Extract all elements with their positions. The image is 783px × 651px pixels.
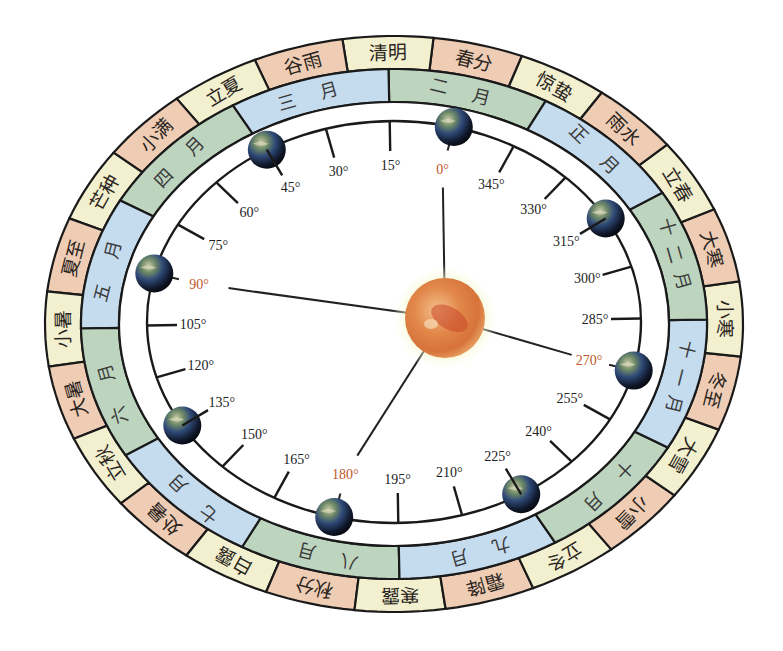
degree-label: 105° [180, 317, 207, 332]
degree-label: 45° [281, 180, 301, 195]
degree-label: 30° [329, 164, 349, 179]
degree-label: 150° [241, 427, 268, 442]
degree-label: 240° [525, 424, 552, 439]
degree-tick [611, 319, 641, 320]
sun-icon [391, 264, 499, 372]
solar-term-segment: 寒露 [355, 576, 446, 612]
earth-icon [435, 108, 473, 146]
earth-icon [315, 498, 353, 536]
degree-label: 120° [187, 358, 214, 373]
degree-label: 255° [556, 391, 583, 406]
solar-term-segment: 清明 [342, 36, 433, 72]
solar-term-segment: 小暑 [45, 291, 84, 366]
solar-term-label: 清明 [369, 41, 407, 64]
solar-term-label: 寒露 [381, 584, 419, 607]
solar-terms-diagram: 春分清明谷雨立夏小满芒种夏至小暑大暑立秋处暑白露秋分寒露霜降立冬小雪大雪冬至小寒… [0, 0, 783, 651]
degree-label: 90° [189, 277, 209, 292]
degree-label: 210° [436, 465, 463, 480]
degree-label: 270° [576, 353, 603, 368]
degree-label: 75° [208, 238, 228, 253]
degree-label: 345° [478, 177, 505, 192]
solar-term-label: 小寒 [714, 300, 737, 338]
earth-icon [615, 352, 653, 390]
solar-term-segment: 小寒 [704, 281, 743, 356]
degree-tick [398, 493, 399, 523]
degree-label: 285° [582, 312, 609, 327]
degree-label: 315° [553, 234, 580, 249]
earth-icon [135, 254, 173, 292]
degree-label: 15° [381, 158, 401, 173]
degree-label: 195° [384, 472, 411, 487]
degree-tick [390, 121, 391, 151]
orbit-diagram-svg: 春分清明谷雨立夏小满芒种夏至小暑大暑立秋处暑白露秋分寒露霜降立冬小雪大雪冬至小寒… [0, 0, 783, 651]
degree-label: 135° [208, 395, 235, 410]
solar-term-label: 小暑 [52, 310, 75, 348]
degree-tick [147, 325, 177, 326]
degree-label: 330° [520, 202, 547, 217]
degree-label: 0° [436, 162, 449, 177]
degree-label: 180° [332, 467, 359, 482]
degree-label: 225° [484, 449, 511, 464]
degree-label: 300° [574, 271, 601, 286]
degree-label: 165° [283, 452, 310, 467]
degree-label: 60° [240, 205, 260, 220]
